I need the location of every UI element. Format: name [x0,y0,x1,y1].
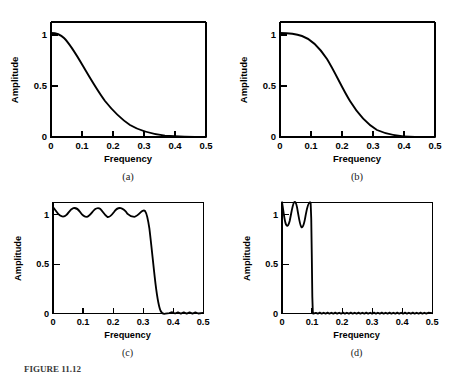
y-ticks-d [282,215,289,314]
x-tick-5-d: 0.5 [426,317,439,327]
x-tick-0-c: 0 [50,317,55,327]
axis-frame-c [53,202,203,313]
plot-svg-d: 0 0.1 0.2 0.3 0.4 0.5 0 0.5 1 Frequency … [229,180,458,366]
y-tick-05-c: 0.5 [36,259,49,269]
x-tick-5-c: 0.5 [197,317,210,327]
x-tick-3-d: 0.3 [366,317,379,327]
chart-panel-c: 0 0.1 0.2 0.3 0.4 0.5 0 0.5 1 Frequency … [0,180,229,366]
figure-caption: FIGURE 11.12 [24,364,444,372]
plot-svg-c: 0 0.1 0.2 0.3 0.4 0.5 0 0.5 1 Frequency … [0,180,229,366]
y-tick-05-d: 0.5 [265,259,278,269]
y-tick-1-d: 1 [273,210,278,220]
x-tick-2-c: 0.2 [107,317,120,327]
chart-panel-d: 0 0.1 0.2 0.3 0.4 0.5 0 0.5 1 Frequency … [229,180,458,366]
x-tick-2-d: 0.2 [336,317,349,327]
x-tick-3-c: 0.3 [137,317,150,327]
y-tick-0-d: 0 [273,309,278,319]
x-tick-4-c: 0.4 [167,317,181,327]
y-ticks-c [53,215,60,314]
panel-label-c: (c) [122,347,133,359]
response-curve-c [53,207,203,314]
y-tick-1-c: 1 [44,210,49,220]
chart-panel-b: 0 0.1 0.2 0.3 0.4 0.5 0 0.5 1 Frequency … [229,0,458,186]
x-tick-1-d: 0.1 [306,317,319,327]
x-axis-label-d: Frequency [333,330,380,340]
panel-label-svg-a: (a) [0,0,229,186]
chart-panel-a: 0 0.1 0.2 0.3 0.4 0.5 0 0.5 1 Frequency … [0,0,229,186]
y-tick-0-c: 0 [44,309,49,319]
response-curve-d [282,202,432,314]
y-axis-label-d: Amplitude [242,236,252,281]
x-tick-4-d: 0.4 [396,317,410,327]
x-axis-label-c: Frequency [104,330,151,340]
x-tick-0-d: 0 [279,317,284,327]
x-tick-1-c: 0.1 [77,317,90,327]
y-axis-label-c: Amplitude [13,236,23,281]
figure-container: 0 0.1 0.2 0.3 0.4 0.5 0 0.5 1 Frequency … [0,0,459,372]
panel-label-d: (d) [351,347,363,359]
panel-label-svg-b: (b) [229,0,458,186]
